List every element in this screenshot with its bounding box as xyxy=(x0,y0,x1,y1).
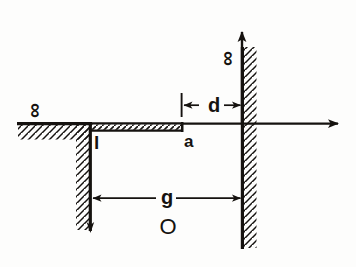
infinity-label-left: ∞ xyxy=(23,100,44,122)
plate-thickness-label-l: l xyxy=(94,133,104,152)
horizontal-plate xyxy=(90,122,183,132)
left-wall-hatched-region xyxy=(76,123,94,233)
infinity-label-right: ∞ xyxy=(216,48,237,70)
plate-edge-label-a: a xyxy=(184,133,198,150)
dimension-g-label: g xyxy=(158,187,176,207)
right-wall-hatched-region xyxy=(242,47,256,249)
dimension-d-label: d xyxy=(204,95,224,115)
diagram-canvas: ∞ ∞ d g a l O xyxy=(0,0,356,267)
origin-label-O: O xyxy=(157,216,179,238)
